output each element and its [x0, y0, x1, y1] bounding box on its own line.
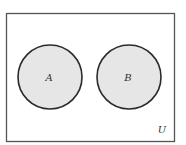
set-a-label: A	[44, 72, 52, 83]
venn-diagram: A B U	[0, 0, 186, 145]
universe-label: U	[158, 124, 167, 135]
set-b-label: B	[123, 72, 131, 83]
